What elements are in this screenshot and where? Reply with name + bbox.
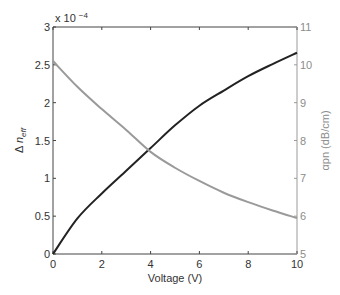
y-right-tick-label: 5 xyxy=(300,248,306,260)
y-tick-label: 0 xyxy=(44,248,50,260)
y-tick-label: 0.5 xyxy=(35,210,50,222)
x-tick-label: 6 xyxy=(196,258,202,270)
series-alpha-pn-line xyxy=(53,61,297,218)
axes xyxy=(53,27,297,254)
y-right-tick-label: 9 xyxy=(300,97,306,109)
y-multiplier-label: x 10 −4 xyxy=(55,11,89,24)
y-right-tick-label: 6 xyxy=(300,210,306,222)
y-tick-label: 3 xyxy=(44,21,50,33)
y-tick-label: 1.5 xyxy=(35,135,50,147)
x-tick-label: 2 xyxy=(99,258,105,270)
x-axis-label: Voltage (V) xyxy=(148,272,202,284)
x-tick-label: 4 xyxy=(148,258,154,270)
chart: 024681000.511.522.53567891011x 10 −4Volt… xyxy=(0,0,340,295)
curves xyxy=(53,53,297,254)
y-right-tick-label: 7 xyxy=(300,172,306,184)
y-tick-label: 2.5 xyxy=(35,59,50,71)
y-right-tick-label: 11 xyxy=(300,21,311,33)
x-tick-label: 8 xyxy=(245,258,251,270)
y-right-tick-label: 10 xyxy=(300,59,312,71)
y-right-axis-label: αpn (dB/cm) xyxy=(319,110,331,170)
y-tick-label: 1 xyxy=(44,172,50,184)
y-right-tick-label: 8 xyxy=(300,135,306,147)
y-axis-label: Δ neff xyxy=(13,127,28,153)
y-tick-label: 2 xyxy=(44,97,50,109)
x-tick-label: 0 xyxy=(50,258,56,270)
series-delta-neff-line xyxy=(53,53,297,254)
